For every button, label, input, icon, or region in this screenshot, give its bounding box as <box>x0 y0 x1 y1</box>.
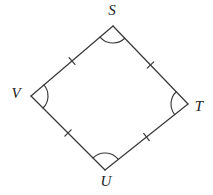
tick-marks-group <box>65 58 154 141</box>
vertex-label-s: S <box>108 2 116 18</box>
vertex-label-v: V <box>11 85 22 101</box>
angle-arc-t <box>171 92 176 115</box>
angle-arc-v <box>43 85 48 108</box>
vertex-label-u: U <box>101 173 113 189</box>
tick-mark-tu <box>144 133 150 140</box>
geometry-figure: STUV <box>0 0 213 195</box>
angle-arc-s <box>100 37 125 43</box>
quadrilateral-diagram: STUV <box>0 0 213 195</box>
angle-arcs-group <box>43 37 176 159</box>
sides-group <box>31 26 188 170</box>
vertex-label-t: T <box>195 98 205 114</box>
angle-arc-u <box>93 153 118 159</box>
